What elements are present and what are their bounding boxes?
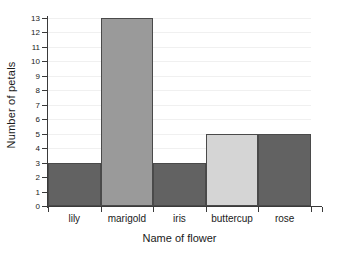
- x-axis-category-label: marigold: [101, 213, 154, 224]
- x-axis-tick: [311, 207, 312, 212]
- bar: [48, 163, 101, 206]
- x-axis-category-label: rose: [258, 213, 311, 224]
- x-axis-tick: [206, 207, 207, 212]
- bar: [101, 18, 154, 206]
- gridline: [48, 18, 311, 19]
- y-axis-tick-label: 7: [14, 100, 40, 109]
- x-axis-tick: [101, 207, 102, 212]
- x-axis-line: [47, 206, 322, 207]
- bar: [153, 163, 206, 206]
- x-axis-end-tick: [322, 207, 323, 212]
- y-axis-tick-label: 11: [14, 42, 40, 51]
- bar: [258, 134, 311, 206]
- x-axis-category-label: iris: [153, 213, 206, 224]
- x-axis-title: Name of flower: [48, 232, 311, 244]
- gridline: [48, 32, 311, 33]
- gridline: [48, 105, 311, 106]
- y-axis-tick-label: 8: [14, 86, 40, 95]
- y-axis-tick-label: 9: [14, 71, 40, 80]
- y-axis-tick-label: 13: [14, 14, 40, 23]
- y-axis-tick-label: 1: [14, 187, 40, 196]
- y-axis-tick-label: 10: [14, 57, 40, 66]
- bar-chart: Number of petals 012345678910111213 lily…: [0, 0, 339, 253]
- x-axis-tick: [153, 207, 154, 212]
- gridline: [48, 61, 311, 62]
- x-axis-tick: [258, 207, 259, 212]
- y-axis-tick-label: 3: [14, 158, 40, 167]
- gridline: [48, 47, 311, 48]
- x-axis-tick: [48, 207, 49, 212]
- x-axis-category-label: buttercup: [206, 213, 259, 224]
- y-axis-tick-label: 4: [14, 144, 40, 153]
- gridline: [48, 90, 311, 91]
- y-axis-tick-label: 2: [14, 173, 40, 182]
- gridline: [48, 119, 311, 120]
- bar: [206, 134, 259, 206]
- y-axis-tick-label: 0: [14, 202, 40, 211]
- y-axis-tick-label: 12: [14, 28, 40, 37]
- plot-area: [48, 18, 311, 206]
- y-axis-tick-label: 5: [14, 129, 40, 138]
- gridline: [48, 76, 311, 77]
- x-axis-category-label: lily: [48, 213, 101, 224]
- y-axis-tick-label: 6: [14, 115, 40, 124]
